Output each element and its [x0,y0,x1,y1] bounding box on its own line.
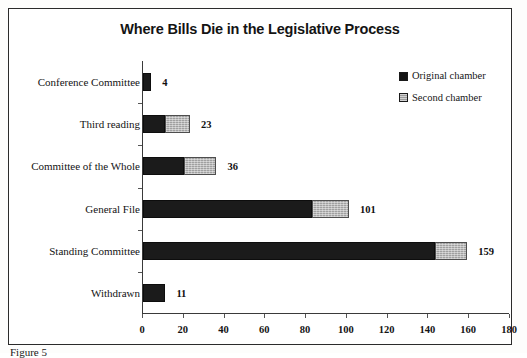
stacked-bar [143,284,165,302]
y-axis-tick [138,188,142,189]
y-axis-tick [138,145,142,146]
x-axis-tick [264,314,265,318]
bar-segment-original-chamber [143,73,151,91]
bar-segment-original-chamber [143,157,184,175]
x-axis-tick [224,314,225,318]
y-axis-category-label: Committee of the Whole [15,160,140,172]
x-axis-tick [468,314,469,318]
stacked-bar [143,200,349,218]
figure-frame: Where Bills Die in the Legislative Proce… [8,8,512,345]
x-axis-tick-label: 180 [501,324,517,335]
y-axis-category-label: Standing Committee [15,245,140,257]
x-axis-tick [427,314,428,318]
bar-value-label: 11 [176,287,186,298]
bar-segment-original-chamber [143,242,435,260]
x-axis-tick-label: 80 [300,324,311,335]
y-axis-category-label: Withdrawn [15,287,140,299]
chart-title: Where Bills Die in the Legislative Proce… [9,21,511,37]
stacked-bar [143,157,216,175]
x-axis-tick-label: 160 [460,324,476,335]
x-axis-tick [305,314,306,318]
y-axis-tick [138,272,142,273]
x-axis-tick-label: 60 [259,324,270,335]
x-axis-tick-label: 20 [178,324,189,335]
figure-caption: Figure 5 [10,346,47,358]
bar-segment-second-chamber [165,115,189,133]
bar-segment-second-chamber [184,157,217,175]
stacked-bar [143,242,467,260]
x-axis-tick [509,314,510,318]
x-axis-tick [387,314,388,318]
stacked-bar [143,115,190,133]
bar-value-label: 36 [227,161,238,172]
bar-value-label: 101 [360,203,376,214]
value-axis-line [142,61,143,314]
y-axis-tick [138,103,142,104]
x-axis-tick-label: 100 [338,324,354,335]
bar-value-label: 4 [162,77,167,88]
bar-value-label: 23 [201,119,212,130]
x-axis-tick-label: 0 [139,324,144,335]
x-axis-tick-label: 120 [379,324,395,335]
x-axis-tick [142,314,143,318]
bar-segment-second-chamber [312,200,349,218]
bar-segment-original-chamber [143,284,165,302]
bar-segment-second-chamber [435,242,468,260]
category-axis-line [142,313,509,314]
y-axis-category-label: Conference Committee [15,76,140,88]
bar-value-label: 159 [478,245,494,256]
y-axis-category-label: Third reading [15,118,140,130]
bar-segment-original-chamber [143,115,165,133]
bar-segment-original-chamber [143,200,312,218]
plot-area: 020406080100120140160180 Conference Comm… [142,61,509,314]
x-axis-tick-label: 140 [420,324,436,335]
x-axis-tick [346,314,347,318]
x-axis-tick-label: 40 [218,324,229,335]
x-axis-tick [183,314,184,318]
stacked-bar [143,73,151,91]
y-axis-category-label: General File [15,203,140,215]
y-axis-tick [138,230,142,231]
